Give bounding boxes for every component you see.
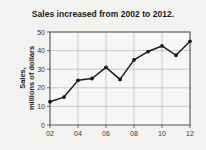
x-tick-label: 12 — [186, 130, 194, 137]
data-point-marker — [104, 65, 108, 69]
data-point-marker — [62, 95, 66, 99]
x-tick-label: 02 — [46, 130, 54, 137]
data-point-marker — [188, 39, 192, 43]
y-tick-label: 0 — [41, 122, 45, 129]
y-tick-label: 20 — [37, 84, 45, 91]
data-point-marker — [76, 78, 80, 82]
x-tick-label: 04 — [74, 130, 82, 137]
data-point-marker — [118, 78, 122, 82]
data-point-marker — [146, 50, 150, 54]
data-point-marker — [48, 100, 52, 104]
y-tick-label: 40 — [37, 47, 45, 54]
y-tick-label: 30 — [37, 66, 45, 73]
data-point-marker — [132, 58, 136, 62]
chart-figure: Sales increased from 2002 to 2012. Sales… — [0, 0, 206, 150]
data-point-marker — [90, 77, 94, 81]
data-point-marker — [174, 53, 178, 57]
x-tick-label: 10 — [158, 130, 166, 137]
line-chart-plot: 01020304050 020406081012 — [0, 0, 206, 150]
x-tick-label: 08 — [130, 130, 138, 137]
y-axis-tick-labels: 01020304050 — [37, 29, 45, 129]
x-tick-label: 06 — [102, 130, 110, 137]
y-tick-label: 10 — [37, 103, 45, 110]
x-axis-tick-labels: 020406081012 — [46, 130, 194, 137]
data-point-marker — [160, 44, 164, 48]
y-tick-label: 50 — [37, 29, 45, 36]
